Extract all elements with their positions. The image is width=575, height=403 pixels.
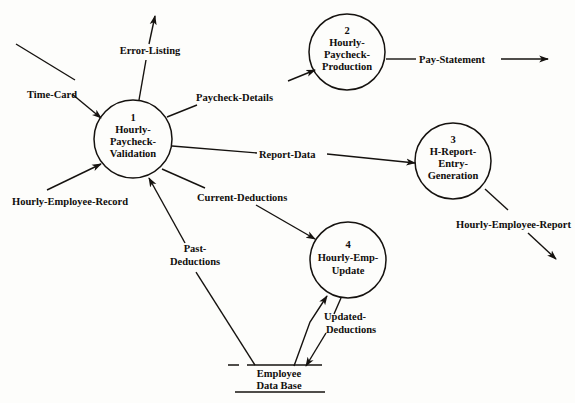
flow-current-deductions-segment-b <box>256 205 315 239</box>
data-flow-diagram-canvas: Time-Card Error-Listing Hourly-Employee-… <box>0 0 575 403</box>
flow-label-report-data: Report-Data <box>259 149 316 160</box>
data-store-employee-data-base[interactable]: Employee Data Base <box>228 365 325 392</box>
process-3-name-line2: Entry- <box>438 158 468 169</box>
flow-report-data-segment-a <box>172 146 257 153</box>
flow-hourly-employee-report: Hourly-Employee-Report <box>456 189 571 259</box>
process-2-name-line1: Hourly- <box>329 37 365 48</box>
data-store-label-line1: Employee <box>257 368 302 379</box>
process-1-name-line3: Validation <box>110 148 156 159</box>
flow-label-paycheck-details: Paycheck-Details <box>196 92 273 103</box>
process-2-number: 2 <box>344 25 349 36</box>
flow-past-deductions-segment-a <box>196 272 255 365</box>
flow-label-past-deductions-line2: Deductions <box>170 256 220 267</box>
data-store-label-line2: Data Base <box>256 380 302 391</box>
flow-updated-deductions-read <box>294 296 327 366</box>
flow-past-deductions-segment-b <box>149 178 185 243</box>
flow-current-deductions: Current-Deductions <box>162 169 315 239</box>
flow-label-current-deductions: Current-Deductions <box>197 192 287 203</box>
process-3-name-line3: Generation <box>428 170 479 181</box>
flow-label-past-deductions-line1: Past- <box>184 243 207 254</box>
process-3-number: 3 <box>450 134 455 145</box>
flow-paycheck-details-segment-a <box>167 105 197 117</box>
flow-error-listing: Error-Listing <box>120 16 181 100</box>
process-4-name-line1: Hourly-Emp- <box>318 252 379 263</box>
flow-error-listing-segment-a <box>139 60 146 100</box>
flow-updated-deductions-write: Updated- Deductions <box>306 298 376 366</box>
process-4[interactable]: 4 Hourly-Emp- Update <box>310 222 386 298</box>
flow-hourly-employee-record-segment <box>47 164 101 190</box>
process-2-name-line2: Paycheck- <box>324 49 371 60</box>
flow-report-data: Report-Data <box>172 146 415 163</box>
flow-error-listing-segment-b <box>149 16 155 44</box>
flow-label-pay-statement: Pay-Statement <box>419 54 485 65</box>
flow-time-card-segment-a <box>16 44 75 80</box>
flow-hourly-employee-report-segment-b <box>528 233 556 259</box>
process-3-name-line1: H-Report- <box>430 146 477 157</box>
flow-pay-statement: Pay-Statement <box>386 54 548 65</box>
flow-label-hourly-employee-report: Hourly-Employee-Report <box>456 219 571 230</box>
flow-label-updated-deductions-line1: Updated- <box>324 311 367 322</box>
process-4-name-line2: Update <box>332 265 365 276</box>
flow-label-hourly-employee-record: Hourly-Employee-Record <box>12 196 128 207</box>
process-1[interactable]: 1 Hourly- Paycheck- Validation <box>94 100 172 178</box>
flow-current-deductions-segment-a <box>162 169 205 188</box>
process-4-number: 4 <box>345 239 351 250</box>
dfd-svg: Time-Card Error-Listing Hourly-Employee-… <box>0 0 575 403</box>
process-1-name-line1: Hourly- <box>115 124 151 135</box>
process-2-name-line3: Production <box>322 61 372 72</box>
process-1-name-line2: Paycheck- <box>110 136 157 147</box>
flow-label-updated-deductions-line2: Deductions <box>326 324 376 335</box>
flow-label-error-listing: Error-Listing <box>120 45 181 56</box>
flow-updated-deductions-write-segment-b <box>306 333 326 366</box>
flow-report-data-segment-b <box>327 154 415 163</box>
flow-past-deductions: Past- Deductions <box>149 178 255 365</box>
flow-hourly-employee-report-segment-a <box>485 189 508 210</box>
process-2[interactable]: 2 Hourly- Paycheck- Production <box>309 14 385 90</box>
flow-updated-deductions-read-segment <box>294 296 327 366</box>
process-3[interactable]: 3 H-Report- Entry- Generation <box>415 123 491 199</box>
flow-paycheck-details-segment-b <box>288 70 315 81</box>
flow-paycheck-details: Paycheck-Details <box>167 70 315 117</box>
flow-time-card: Time-Card <box>16 44 101 118</box>
flow-label-time-card: Time-Card <box>27 89 77 100</box>
process-1-number: 1 <box>130 112 135 123</box>
